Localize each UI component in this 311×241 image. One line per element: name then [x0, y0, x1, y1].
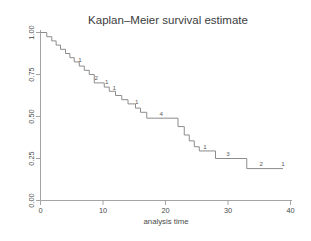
censor-count-label: 1 [78, 56, 82, 63]
x-tick-label-10: 10 [99, 206, 107, 215]
x-tick-label-30: 30 [224, 206, 232, 215]
y-tick-label-0.75: 0.75 [27, 67, 36, 81]
censor-count-label: 1 [105, 78, 109, 85]
y-tick-label-0.00: 0.00 [27, 193, 36, 207]
kaplan-meier-figure: Kaplan–Meier survival estimate 1.00 0.75… [0, 0, 311, 241]
x-tick-label-0: 0 [38, 206, 42, 215]
survival-plot-svg: Kaplan–Meier survival estimate 1.00 0.75… [0, 0, 311, 241]
censor-count-label: 2 [259, 160, 263, 167]
x-tick-label-20: 20 [161, 206, 169, 215]
y-tick-label-0.25: 0.25 [27, 151, 36, 165]
x-axis-title: analysis time [143, 217, 188, 226]
censor-count-label: 1 [113, 84, 117, 91]
y-tick-label-0.50: 0.50 [27, 109, 36, 123]
censor-count-label: 1 [203, 143, 207, 150]
censor-annotations-group: 1211141321 [78, 56, 285, 167]
chart-title: Kaplan–Meier survival estimate [88, 14, 248, 26]
x-tick-label-40: 40 [286, 206, 294, 215]
censor-count-label: 3 [226, 150, 230, 157]
censor-count-label: 1 [281, 160, 285, 167]
x-axis-ticks [41, 201, 291, 206]
survival-step-curve [41, 33, 284, 169]
censor-count-label: 1 [135, 98, 139, 105]
censor-count-label: 2 [94, 74, 98, 81]
x-axis-tick-labels: 0 10 20 30 40 [38, 206, 294, 215]
y-tick-label-1.00: 1.00 [27, 25, 36, 39]
y-axis-tick-labels: 1.00 0.75 0.50 0.25 0.00 [27, 25, 36, 207]
censor-count-label: 4 [159, 110, 163, 117]
y-axis-ticks [36, 33, 41, 201]
